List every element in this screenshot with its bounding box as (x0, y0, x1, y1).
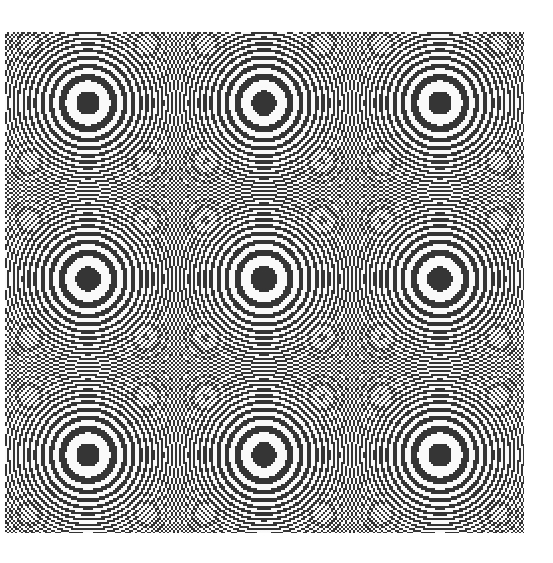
moire-pattern-image (5, 32, 524, 533)
